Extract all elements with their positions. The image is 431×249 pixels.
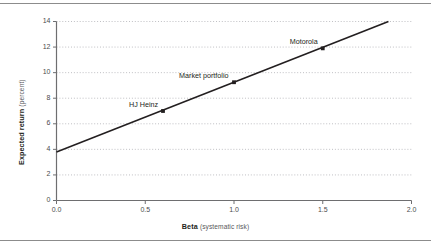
marker-hj-heinz (161, 109, 165, 113)
marker-market-portfolio (232, 80, 236, 84)
x-axis-title: Beta (systematic risk) (0, 222, 431, 231)
marker-motorola (321, 46, 325, 50)
y-axis-title-text: Expected return (17, 109, 26, 165)
y-axis-title-unit: (percent) (18, 79, 25, 106)
x-tick-label-1: 1.0 (221, 206, 247, 213)
y-tick-label-0: 0 (29, 196, 51, 203)
y-tick-label-10: 10 (29, 68, 51, 75)
y-tick-label-4: 4 (29, 145, 51, 152)
y-tick-label-2: 2 (29, 170, 51, 177)
x-tick-label-1.5: 1.5 (310, 206, 336, 213)
axis-spine-group (57, 22, 412, 201)
x-axis-title-text: Beta (182, 222, 198, 231)
series-line (57, 22, 389, 152)
x-tick-label-0: 0.0 (44, 206, 70, 213)
y-tick-label-12: 12 (29, 43, 51, 50)
label-market-portfolio: Market portfolio (179, 71, 229, 80)
y-tick-label-8: 8 (29, 94, 51, 101)
security-market-line (57, 22, 389, 152)
x-axis-title-unit: (systematic risk) (200, 223, 249, 230)
label-hj-heinz: HJ Heinz (129, 100, 158, 109)
y-axis-title: Expected return (percent) (17, 79, 26, 165)
x-tick-label-0.5: 0.5 (132, 206, 158, 213)
x-tick-label-2: 2.0 (399, 206, 425, 213)
figure-container: 02468101214 0.00.51.01.52.0 HJ HeinzMark… (0, 0, 431, 249)
y-tick-label-6: 6 (29, 119, 51, 126)
y-tick-label-14: 14 (29, 17, 51, 24)
gridline-group (57, 22, 412, 175)
label-motorola: Motorola (290, 37, 318, 46)
